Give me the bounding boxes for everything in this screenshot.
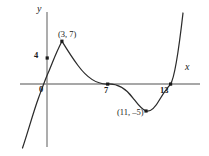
graph-figure: y x 0 4 7 13 (3, 7) (11, –5) [0, 0, 209, 156]
x-axis-label: x [185, 62, 189, 72]
local-max-point-label: (3, 7) [58, 30, 76, 39]
point-marker-local-min [144, 109, 147, 112]
point-marker-local-max [60, 40, 63, 43]
x-intercept-tick-label-13: 13 [160, 86, 169, 95]
y-intercept-tick-label: 4 [34, 51, 38, 60]
origin-label: 0 [39, 85, 43, 94]
local-min-point-label: (11, –5) [117, 108, 144, 117]
x-intercept-tick-label-7: 7 [104, 86, 108, 95]
graph-canvas [0, 0, 209, 156]
point-marker-root-13 [169, 83, 172, 86]
point-marker-y-intercept [46, 56, 49, 59]
y-axis-label: y [37, 4, 41, 14]
